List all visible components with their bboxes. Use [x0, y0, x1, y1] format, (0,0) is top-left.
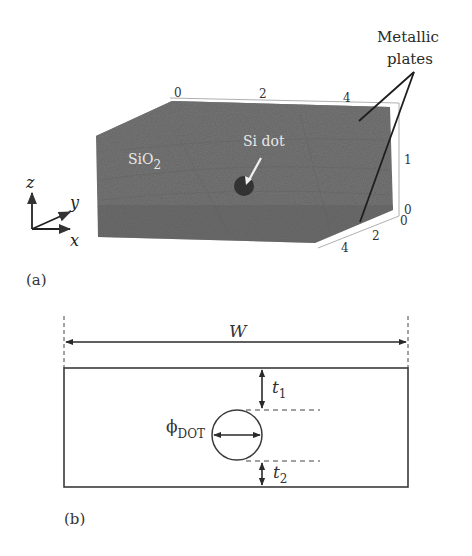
depth-tick-2: 2 — [372, 229, 380, 243]
width-label: W — [229, 321, 248, 341]
panel-a-label: (a) — [26, 271, 47, 289]
panel-a: SiO2 Si dot 0 2 4 1 0 0 2 4 Metallic pla… — [25, 28, 439, 289]
dot-label: Si dot — [243, 133, 285, 149]
figure: SiO2 Si dot 0 2 4 1 0 0 2 4 Metallic pla… — [0, 0, 472, 556]
panel-b: W ϕDOT t1 t2 — [64, 316, 408, 528]
axis-triad — [32, 193, 70, 229]
axis-z-label: z — [25, 173, 35, 192]
oxide-cross-section — [64, 368, 408, 487]
top-tick-0: 0 — [174, 86, 182, 100]
depth-tick-4: 4 — [341, 241, 349, 255]
figure-svg: SiO2 Si dot 0 2 4 1 0 0 2 4 Metallic pla… — [0, 0, 472, 556]
t1-label: t1 — [272, 377, 286, 401]
callout-label-line2: plates — [387, 50, 433, 68]
block-bottom-band — [98, 205, 393, 243]
panel-b-label: (b) — [64, 510, 85, 528]
callout-label-line1: Metallic — [377, 28, 439, 46]
height-tick-1: 1 — [404, 153, 412, 167]
depth-tick-0: 0 — [400, 214, 408, 228]
top-tick-4: 4 — [343, 91, 351, 105]
axis-y-label: y — [69, 193, 80, 212]
top-tick-2: 2 — [259, 87, 267, 101]
dot-diameter-label: ϕDOT — [166, 416, 205, 441]
axis-x-label: x — [70, 231, 79, 250]
t2-label: t2 — [273, 462, 287, 486]
